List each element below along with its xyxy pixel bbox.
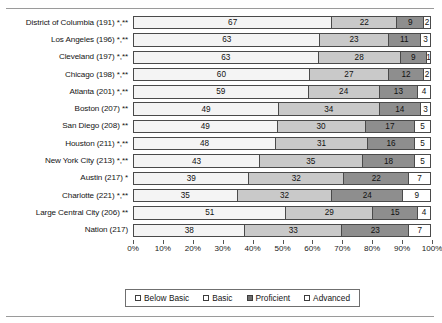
bar-segment-below-basic: 35 [134, 190, 238, 201]
category-label: District of Columbia (191) *,** [0, 18, 133, 28]
chart-row: Charlotte (221) *,**3532249 [0, 187, 440, 204]
chart-row: Large Central City (206) **5129154 [0, 204, 440, 221]
stacked-bar: 6027122 [133, 68, 431, 81]
segment-value-label: 34 [324, 105, 333, 114]
chart-legend: Below BasicBasicProficientAdvanced [125, 289, 360, 307]
bar-segment-basic: 29 [286, 207, 373, 218]
bar-segment-proficient: 12 [389, 69, 424, 80]
category-label: Large Central City (206) ** [0, 208, 133, 218]
bar-segment-proficient: 9 [397, 17, 424, 28]
chart-row: Houston (211) *,**4831165 [0, 135, 440, 152]
chart-row: San Diego (208) **4930175 [0, 118, 440, 135]
legend-label: Below Basic [144, 293, 189, 303]
top-divider [6, 8, 434, 9]
legend-swatch-icon [304, 295, 310, 301]
bar-segment-advanced: 7 [409, 173, 430, 184]
segment-value-label: 3 [423, 105, 428, 114]
segment-value-label: 33 [289, 226, 298, 235]
segment-value-label: 59 [216, 87, 225, 96]
segment-value-label: 39 [187, 174, 196, 183]
stacked-bar: 4831165 [133, 137, 431, 150]
category-label: Boston (207) ** [0, 104, 133, 114]
x-axis-tick-label: 50% [274, 244, 290, 253]
chart-row: Cleveland (197) *,**632891 [0, 49, 440, 66]
bar-segment-basic: 24 [309, 86, 380, 97]
segment-value-label: 29 [325, 208, 334, 217]
bar-segment-advanced: 5 [415, 138, 430, 149]
chart-row: Boston (207) **4934143 [0, 100, 440, 117]
legend-label: Proficient [256, 293, 291, 303]
bar-segment-advanced: 4 [418, 207, 430, 218]
segment-value-label: 49 [201, 122, 210, 131]
bar-segment-advanced: 4 [418, 86, 430, 97]
bar-segment-below-basic: 67 [134, 17, 332, 28]
segment-value-label: 60 [217, 70, 226, 79]
segment-value-label: 12 [401, 70, 410, 79]
segment-value-label: 7 [417, 226, 422, 235]
x-axis-tick-labels: 0%10%20%30%40%50%60%70%80%90%100% [133, 244, 432, 258]
segment-value-label: 30 [316, 122, 325, 131]
bar-segment-below-basic: 63 [134, 34, 320, 45]
x-axis-tick-label: 90% [394, 244, 410, 253]
legend-item-below-basic[interactable]: Below Basic [135, 293, 189, 303]
segment-value-label: 15 [391, 208, 400, 217]
stacked-bar: 3932227 [133, 172, 431, 185]
bar-segment-proficient: 9 [401, 52, 427, 63]
legend-swatch-icon [247, 295, 253, 301]
segment-value-label: 16 [386, 139, 395, 148]
bar-segment-advanced: 1 [427, 52, 430, 63]
segment-value-label: 38 [185, 226, 194, 235]
segment-value-label: 31 [317, 139, 326, 148]
bar-segment-below-basic: 60 [134, 69, 310, 80]
category-label: Houston (211) *,** [0, 139, 133, 149]
x-axis-tick-label: 40% [244, 244, 260, 253]
bar-segment-advanced: 7 [409, 225, 430, 236]
x-axis-tick-label: 100% [422, 244, 442, 253]
bar-segment-below-basic: 38 [134, 225, 245, 236]
x-axis-tick-label: 60% [304, 244, 320, 253]
bottom-divider [6, 316, 434, 317]
segment-value-label: 4 [422, 87, 427, 96]
segment-value-label: 22 [360, 18, 369, 27]
bar-segment-below-basic: 49 [134, 121, 278, 132]
segment-value-label: 14 [395, 105, 404, 114]
segment-value-label: 43 [192, 157, 201, 166]
segment-value-label: 5 [420, 122, 425, 131]
stacked-bar: 5924134 [133, 85, 431, 98]
bar-segment-proficient: 11 [389, 34, 422, 45]
segment-value-label: 48 [200, 139, 209, 148]
stacked-bar: 4930175 [133, 120, 431, 133]
segment-value-label: 32 [292, 174, 301, 183]
bar-segment-basic: 32 [238, 190, 333, 201]
chart-row: Austin (217) *3932227 [0, 170, 440, 187]
chart-row: Los Angeles (196) *,**6323113 [0, 31, 440, 48]
category-label: Chicago (198) *,** [0, 70, 133, 80]
segment-value-label: 49 [201, 105, 210, 114]
segment-value-label: 22 [372, 174, 381, 183]
chart-row: Nation (217)3833237 [0, 222, 440, 239]
segment-value-label: 35 [306, 157, 315, 166]
chart-row: Chicago (198) *,**6027122 [0, 66, 440, 83]
bar-segment-proficient: 22 [344, 173, 409, 184]
bar-segment-proficient: 24 [332, 190, 403, 201]
bar-segment-proficient: 13 [380, 86, 418, 97]
stacked-bar: 3833237 [133, 224, 431, 237]
bar-segment-proficient: 17 [366, 121, 416, 132]
x-axis-tick-label: 10% [155, 244, 171, 253]
bar-segment-basic: 28 [319, 52, 401, 63]
bar-segment-basic: 23 [320, 34, 388, 45]
category-label: Charlotte (221) *,** [0, 191, 133, 201]
chart-row: New York City (213) *,**4335185 [0, 152, 440, 169]
segment-value-label: 27 [344, 70, 353, 79]
category-label: San Diego (208) ** [0, 121, 133, 131]
legend-item-proficient[interactable]: Proficient [247, 293, 291, 303]
bar-segment-basic: 22 [332, 17, 397, 28]
category-label: Nation (217) [0, 225, 133, 235]
stacked-bar: 3532249 [133, 189, 431, 202]
bar-segment-below-basic: 39 [134, 173, 249, 184]
segment-value-label: 18 [384, 157, 393, 166]
legend-item-advanced[interactable]: Advanced [304, 293, 350, 303]
chart-rows: District of Columbia (191) *,**672292Los… [0, 14, 440, 239]
legend-item-basic[interactable]: Basic [203, 293, 232, 303]
bar-segment-proficient: 14 [380, 103, 421, 114]
